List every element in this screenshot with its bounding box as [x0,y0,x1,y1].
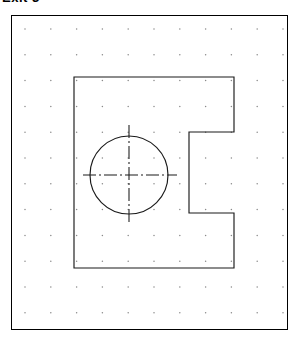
grid-dot [282,209,284,211]
grid-dot [231,106,233,108]
grid-dot [179,209,181,211]
grid-dot [102,157,104,159]
drafting-canvas[interactable] [11,15,288,330]
grid-dot [102,209,104,211]
grid-dot [231,28,233,30]
grid-dot [24,260,26,262]
grid-dot [282,54,284,56]
grid-dot [102,54,104,56]
grid-dot [179,131,181,133]
grid-dot [50,131,52,133]
grid-dot [179,183,181,185]
grid-dot [102,131,104,133]
grid-dot [24,131,26,133]
grid-dot [76,209,78,211]
grid-dot [205,106,207,108]
grid-dot [50,235,52,237]
grid-dot [50,80,52,82]
grid-dot [205,286,207,288]
grid-dot [205,312,207,314]
grid-dot [231,235,233,237]
grid-dot [102,235,104,237]
grid-dot [153,54,155,56]
grid-dot [282,235,284,237]
grid-dot [231,286,233,288]
grid-dot [231,209,233,211]
grid-dot [24,312,26,314]
grid-dot [231,80,233,82]
grid-dot [205,260,207,262]
grid-dot [102,80,104,82]
grid-dot [256,286,258,288]
grid-dot [50,183,52,185]
grid-dot [256,209,258,211]
grid-dot [76,106,78,108]
drawing-svg[interactable] [12,16,289,331]
grid-dot [24,286,26,288]
grid-dot [205,28,207,30]
grid-dot [179,235,181,237]
grid-dot [205,235,207,237]
grid-dot [282,131,284,133]
grid-dot [205,80,207,82]
grid-dot [153,106,155,108]
grid-dot [153,235,155,237]
grid-dot [179,28,181,30]
grid-dot [76,80,78,82]
grid-dot [127,260,129,262]
grid-dot [50,106,52,108]
grid-dot [76,54,78,56]
grid-dot [179,286,181,288]
grid-dot [179,54,181,56]
grid-dot [24,235,26,237]
grid-dot [127,235,129,237]
grid-dot [102,106,104,108]
grid-dot [153,286,155,288]
grid-dot [76,157,78,159]
grid-dot [50,157,52,159]
grid-dot [153,260,155,262]
grid-dot [24,183,26,185]
grid-dot [231,312,233,314]
grid-dot [50,260,52,262]
grid-dot [179,312,181,314]
grid-dot [282,286,284,288]
grid-dot [153,312,155,314]
grid-dot [127,286,129,288]
grid-dot [127,28,129,30]
grid-dot [76,131,78,133]
grid-dot [24,157,26,159]
grid-dot [50,312,52,314]
grid-dot [127,80,129,82]
snap-dot-grid [24,28,284,313]
grid-dot [76,28,78,30]
grid-dot [179,80,181,82]
grid-dot [256,235,258,237]
grid-dot [102,260,104,262]
grid-dot [256,157,258,159]
grid-dot [205,183,207,185]
page-title: Exit 3 [2,0,40,5]
grid-dot [50,54,52,56]
grid-dot [282,80,284,82]
grid-dot [282,28,284,30]
grid-dot [153,28,155,30]
grid-dot [102,286,104,288]
grid-dot [50,209,52,211]
grid-dot [205,209,207,211]
grid-dot [153,183,155,185]
grid-dot [76,235,78,237]
grid-dot [205,54,207,56]
grid-dot [127,312,129,314]
grid-dot [127,106,129,108]
grid-dot [205,157,207,159]
grid-dot [102,28,104,30]
grid-dot [282,106,284,108]
grid-dot [231,183,233,185]
grid-dot [24,106,26,108]
grid-dot [179,157,181,159]
grid-dot [50,28,52,30]
grid-dot [256,131,258,133]
grid-dot [127,54,129,56]
grid-dot [231,260,233,262]
